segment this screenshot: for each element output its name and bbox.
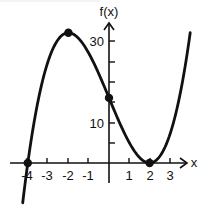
x-tick-label-2: 2 (146, 168, 153, 183)
marked-points (24, 29, 154, 168)
data-point-marker (24, 159, 32, 167)
data-point-marker (64, 29, 72, 37)
x-tick-label-1: 1 (125, 168, 132, 183)
y-tick-label-10: 10 (90, 116, 104, 131)
x-tick-label--3: -3 (41, 168, 53, 183)
x-axis-label: x (191, 155, 198, 170)
y-ticks (109, 41, 115, 143)
x-tick-label--2: -2 (62, 168, 74, 183)
function-graph: f(x) x 30 10 -4 -3 -2 -1 1 2 3 (0, 0, 205, 216)
data-point-marker (145, 159, 153, 167)
x-tick-label-3: 3 (166, 168, 173, 183)
y-tick-label-30: 30 (90, 34, 104, 49)
x-tick-label--1: -1 (82, 168, 94, 183)
data-point-marker (105, 94, 113, 102)
y-axis-label: f(x) (100, 4, 119, 19)
